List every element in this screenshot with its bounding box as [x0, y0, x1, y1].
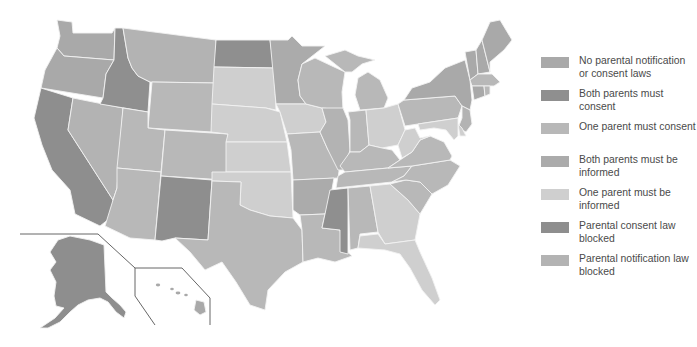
- state-FL[interactable]: [358, 234, 440, 305]
- state-WA[interactable]: [57, 20, 115, 60]
- legend-label: One parent must consent: [579, 121, 697, 134]
- state-IN[interactable]: [348, 110, 369, 152]
- legend-swatch: [541, 189, 569, 200]
- state-OH[interactable]: [366, 104, 405, 148]
- legend-item-consent-blocked: Parental consent law blocked: [541, 220, 696, 253]
- legend-swatch: [541, 123, 569, 134]
- legend-swatch: [541, 156, 569, 167]
- legend-label: Both parents must be informed: [579, 154, 697, 179]
- legend-label: Parental notification law blocked: [579, 253, 697, 278]
- state-HI[interactable]: [156, 284, 206, 315]
- legend-swatch: [541, 90, 569, 101]
- state-AK[interactable]: [40, 236, 126, 328]
- state-SD[interactable]: [212, 67, 276, 110]
- legend-label: No parental notification or consent laws: [579, 55, 697, 80]
- state-MT[interactable]: [123, 28, 216, 83]
- state-KS[interactable]: [226, 142, 291, 172]
- legend-label: One parent must be informed: [579, 187, 697, 212]
- legend-item-notification-blocked: Parental notification law blocked: [541, 253, 696, 286]
- state-WY[interactable]: [148, 82, 215, 132]
- state-CT[interactable]: [472, 86, 485, 100]
- legend-label: Both parents must consent: [579, 88, 697, 113]
- legend-swatch: [541, 222, 569, 233]
- legend-item-one-consent: One parent must consent: [541, 121, 696, 154]
- legend-swatch: [541, 255, 569, 266]
- legend-item-none: No parental notification or consent laws: [541, 55, 696, 88]
- state-NM[interactable]: [155, 176, 212, 241]
- legend-swatch: [541, 57, 569, 68]
- legend: No parental notification or consent laws…: [541, 55, 696, 286]
- legend-label: Parental consent law blocked: [579, 220, 697, 245]
- state-RI[interactable]: [484, 86, 490, 96]
- legend-item-one-informed: One parent must be informed: [541, 187, 696, 220]
- legend-item-both-consent: Both parents must consent: [541, 88, 696, 121]
- legend-item-both-informed: Both parents must be informed: [541, 154, 696, 187]
- state-ND[interactable]: [214, 40, 274, 68]
